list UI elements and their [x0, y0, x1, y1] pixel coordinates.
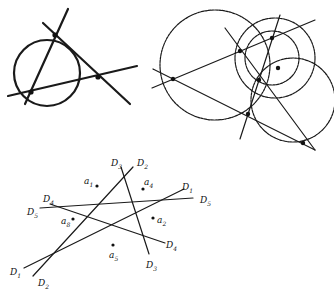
marked-point	[71, 217, 74, 220]
intersection-point	[246, 112, 250, 116]
intersection-point	[257, 78, 261, 82]
line-d5	[40, 198, 193, 208]
figure-line-arrangement: D1D5D2D3D4D3D4D5D1D2a1a4a8a2a5	[9, 158, 211, 290]
intersection-point	[270, 36, 274, 40]
point-label: a8	[61, 216, 70, 228]
intersection-point	[28, 89, 33, 94]
line-label: D4	[165, 240, 177, 252]
intersection-point	[52, 32, 57, 37]
line-2	[153, 69, 315, 150]
line-label: D5	[199, 195, 211, 207]
intersection-point	[238, 49, 242, 53]
point-label: a4	[144, 177, 153, 189]
line-label: D3	[145, 260, 157, 272]
intersection-point	[301, 141, 305, 145]
line-label: D2	[136, 158, 148, 170]
line-label: D1	[9, 267, 21, 279]
intersection-point	[276, 66, 280, 70]
line-label: D3	[110, 158, 122, 170]
intersection-point	[95, 74, 100, 79]
circumcircle-1	[160, 10, 270, 120]
figure-circumcircle-triangle	[8, 9, 137, 106]
line-label: D1	[181, 182, 193, 194]
marked-point	[151, 216, 154, 219]
circumcircle-4	[251, 58, 334, 142]
point-label: a5	[109, 250, 118, 262]
diagram-canvas: D1D5D2D3D4D3D4D5D1D2a1a4a8a2a5	[0, 0, 334, 293]
point-label: a1	[84, 176, 93, 188]
line-label: D5	[26, 207, 38, 219]
intersection-point	[171, 77, 175, 81]
line-label: D4	[42, 194, 54, 206]
marked-point	[95, 184, 98, 187]
marked-point	[111, 243, 114, 246]
circumcircle	[14, 40, 80, 106]
line-label: D2	[37, 278, 49, 290]
marked-point	[141, 187, 144, 190]
figure-miquel-circles	[152, 10, 334, 150]
point-label: a2	[157, 215, 166, 227]
